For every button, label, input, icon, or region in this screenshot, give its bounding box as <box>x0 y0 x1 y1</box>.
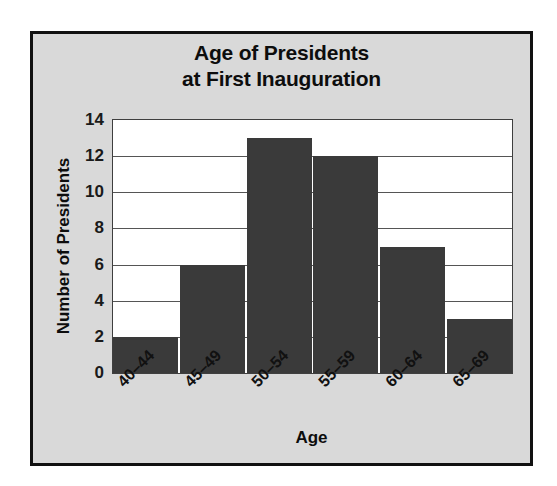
y-axis-title-label: Number of Presidents <box>54 157 74 334</box>
x-tick-slot-0: 40–44 <box>112 374 178 434</box>
y-tick-label-4: 4 <box>95 290 104 310</box>
y-tick-label-2: 2 <box>95 326 104 346</box>
x-axis-title: Age <box>112 428 511 448</box>
y-tick-label-0: 0 <box>95 363 104 383</box>
x-tick-slot-3: 55–59 <box>313 374 379 434</box>
chart-title: Age of Presidents at First Inauguration <box>33 40 530 92</box>
x-tick-slot-5: 65–69 <box>447 374 513 434</box>
chart-title-line-2: at First Inauguration <box>33 66 530 92</box>
chart-title-line-1: Age of Presidents <box>33 40 530 66</box>
x-axis-tick-labels: 40–4445–4950–5455–5960–6465–69 <box>112 374 513 434</box>
x-tick-slot-4: 60–64 <box>380 374 446 434</box>
chart-figure-frame: Age of Presidents at First Inauguration … <box>30 31 533 466</box>
plot-area: 02468101214 <box>112 119 513 374</box>
y-axis-title: Number of Presidents <box>52 119 76 372</box>
x-tick-slot-2: 50–54 <box>246 374 312 434</box>
y-tick-label-14: 14 <box>85 110 104 130</box>
y-tick-label-6: 6 <box>95 254 104 274</box>
y-tick-label-8: 8 <box>95 218 104 238</box>
x-tick-slot-1: 45–49 <box>179 374 245 434</box>
y-tick-label-12: 12 <box>85 146 104 166</box>
y-axis-tick-labels: 02468101214 <box>113 120 512 373</box>
y-tick-label-10: 10 <box>85 182 104 202</box>
